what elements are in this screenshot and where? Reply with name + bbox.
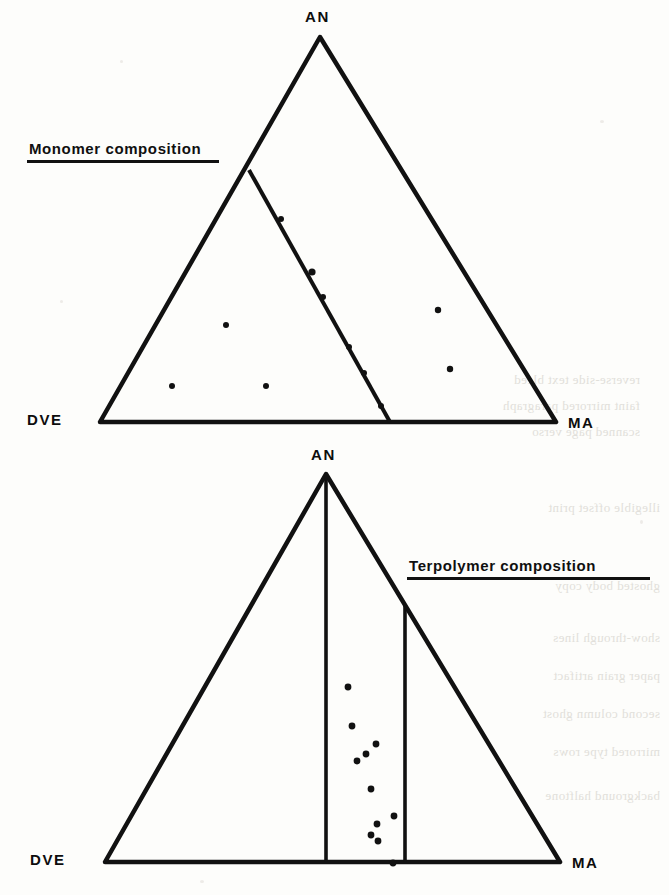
- data-point: [345, 684, 352, 691]
- data-point: [169, 383, 175, 389]
- data-point: [278, 216, 284, 222]
- data-point: [390, 860, 397, 867]
- data-point: [391, 813, 398, 820]
- data-point: [263, 383, 269, 389]
- vertex-label-an-bottom: AN: [311, 446, 336, 463]
- caption-text: Terpolymer composition: [407, 557, 650, 577]
- terpolymer-ternary-plot: [0, 445, 669, 895]
- data-point: [320, 294, 326, 300]
- vertex-label-ma-bottom: MA: [572, 854, 599, 871]
- data-point: [373, 741, 380, 748]
- data-point: [447, 366, 453, 372]
- data-point: [363, 751, 370, 758]
- vertex-label-dve-top: DVE: [27, 411, 63, 428]
- data-point: [361, 370, 367, 376]
- data-point: [354, 758, 361, 765]
- scanned-page: reverse-side text bleed faint mirrored p…: [0, 0, 669, 895]
- monomer-composition-figure: [0, 0, 669, 445]
- terpolymer-composition-figure: [0, 445, 669, 895]
- tie-line: [249, 170, 390, 422]
- data-point: [368, 832, 375, 839]
- data-point: [374, 821, 381, 828]
- monomer-ternary-plot: [0, 0, 669, 445]
- data-point: [368, 786, 375, 793]
- data-point: [223, 322, 229, 328]
- terpolymer-composition-caption: Terpolymer composition: [407, 557, 650, 580]
- vertex-label-ma-top: MA: [568, 414, 595, 431]
- data-point: [308, 268, 315, 275]
- data-point: [375, 838, 382, 845]
- data-point: [435, 307, 441, 313]
- vertex-label-dve-bottom: DVE: [30, 851, 66, 868]
- ternary-triangle-outline: [105, 474, 560, 862]
- caption-underline: [407, 577, 650, 580]
- caption-text: Monomer composition: [27, 140, 219, 160]
- data-point: [349, 723, 356, 730]
- data-point: [378, 403, 384, 409]
- data-point: [346, 344, 352, 350]
- monomer-composition-caption: Monomer composition: [27, 140, 219, 163]
- caption-underline: [27, 160, 219, 163]
- ternary-triangle-outline: [100, 37, 556, 422]
- vertex-label-an-top: AN: [305, 8, 330, 25]
